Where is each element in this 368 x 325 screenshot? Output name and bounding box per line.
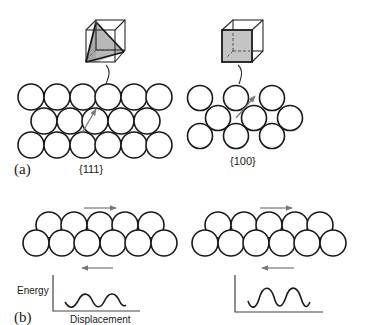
panel-a-111: (a) {111} (14, 20, 172, 178)
fcc-cube-tetrahedron-icon (86, 20, 125, 62)
y-axis-label: Energy (17, 285, 49, 296)
atom-layer-111 (18, 84, 172, 158)
plane-label-100: {100} (230, 155, 256, 167)
energy-plot-large (235, 275, 323, 312)
plane-label-111: {111} (79, 163, 103, 175)
x-axis-label: Displacement (70, 314, 131, 325)
atom-bilayer (23, 212, 177, 256)
panel-b-right (192, 208, 346, 312)
atom-bilayer (192, 212, 346, 256)
panel-b-left: Energy Displacement (b) (14, 208, 177, 325)
energy-plot-small: Energy Displacement (17, 275, 140, 325)
connector-line (238, 65, 242, 84)
atom-layer-100 (188, 86, 303, 149)
panel-a-label: (a) (14, 161, 31, 178)
connector-line (106, 65, 109, 84)
panel-a-100: {100} (188, 20, 303, 167)
panel-b-label: (b) (14, 309, 32, 325)
slip-planes-diagram: (a) {111} (0, 0, 368, 325)
fcc-cube-face-icon (222, 20, 263, 62)
